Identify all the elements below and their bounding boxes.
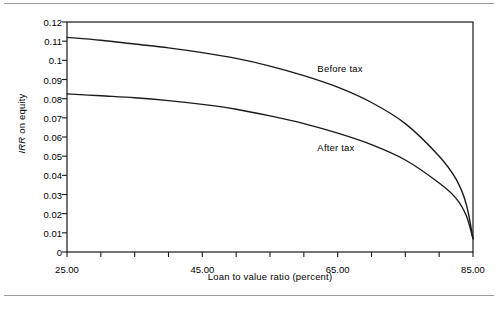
x-axis-title: Loan to value ratio (percent): [67, 271, 473, 282]
chart-figure: IRR on equity 00.010.020.030.040.050.060…: [0, 6, 498, 292]
figure-page: IRR on equity 00.010.020.030.040.050.060…: [0, 0, 498, 309]
page-rule-top: [4, 3, 494, 4]
page-rule-bottom: [4, 295, 494, 296]
chart-plot-area: [0, 6, 498, 292]
series-annotation-after-tax: After tax: [317, 142, 354, 153]
y-axis-tick-labels: 00.010.020.030.040.050.060.070.080.090.1…: [18, 6, 62, 252]
series-annotation-before-tax: Before tax: [317, 63, 362, 74]
